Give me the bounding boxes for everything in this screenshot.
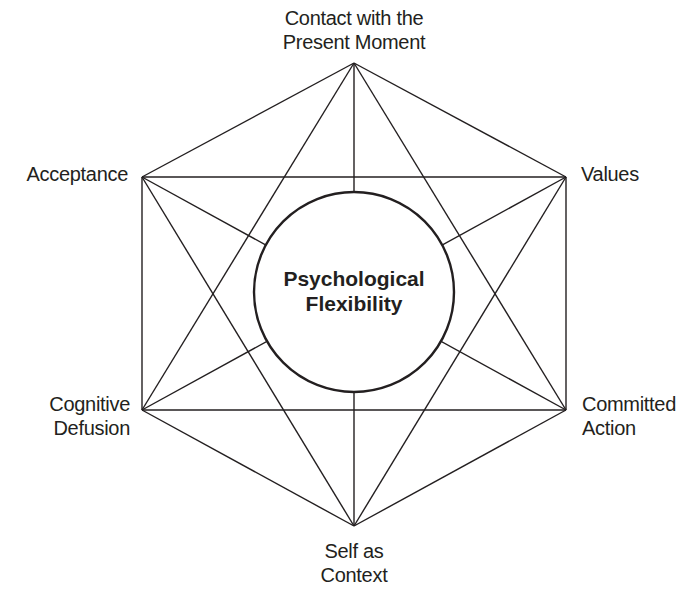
node-committed-action-line1: Committed [582,392,676,416]
node-present-moment: Contact with the Present Moment [254,6,454,54]
node-acceptance: Acceptance [0,162,128,186]
node-cognitive-defusion: Cognitive Defusion [20,392,130,440]
node-present-moment-line1: Contact with the [254,6,454,30]
node-committed-action: Committed Action [582,392,676,440]
node-self-as-context-line1: Self as [284,539,424,563]
center-label-line2: Flexibility [254,291,454,316]
node-self-as-context-line2: Context [284,563,424,587]
node-acceptance-line1: Acceptance [0,162,128,186]
node-self-as-context: Self as Context [284,539,424,587]
node-cognitive-defusion-line1: Cognitive [20,392,130,416]
node-values: Values [581,162,639,186]
center-label-line1: Psychological [254,266,454,291]
node-committed-action-line2: Action [582,416,676,440]
node-cognitive-defusion-line2: Defusion [20,416,130,440]
center-label: Psychological Flexibility [254,266,454,316]
node-present-moment-line2: Present Moment [254,30,454,54]
node-values-line1: Values [581,162,639,186]
